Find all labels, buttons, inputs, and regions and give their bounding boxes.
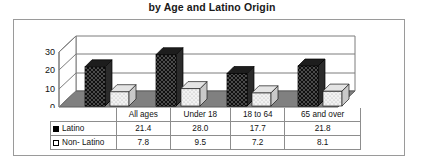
table-row: Latino 21.4 28.0 17.7 21.8 — [51, 122, 361, 136]
legend-item-non-latino: Non- Latino — [51, 136, 117, 150]
table-corner-spacer — [51, 108, 117, 122]
bar-non-latino-all-ages — [110, 85, 136, 106]
table-col-header-18-to-64: 18 to 64 — [231, 108, 285, 122]
table-cell-non-latino-18-to-64: 7.2 — [231, 136, 285, 150]
table-header-row: All ages Under 18 18 to 64 65 and over — [51, 108, 361, 122]
table-cell-latino-18-to-64: 17.7 — [231, 122, 285, 136]
table-cell-non-latino-under-18: 9.5 — [170, 136, 231, 150]
bar-non-latino-65-and-over — [323, 84, 349, 106]
table-col-header-65-and-over: 65 and over — [285, 108, 361, 122]
y-tick-10: 10 — [45, 84, 55, 94]
hollow-square-icon — [53, 140, 59, 146]
legend-label-latino: Latino — [62, 124, 84, 133]
table-cell-non-latino-65-and-over: 8.1 — [285, 136, 361, 150]
bar-non-latino-18-to-64 — [252, 86, 278, 106]
bar-face-texture — [85, 67, 105, 106]
bar-face-texture — [110, 92, 129, 106]
bar-face-texture — [252, 93, 271, 106]
legend-item-latino: Latino — [51, 122, 117, 136]
bar-latino-under-18 — [156, 48, 183, 106]
bar-latino-all-ages — [85, 60, 112, 106]
chart-data-table: All ages Under 18 18 to 64 65 and over L… — [50, 108, 361, 150]
bar-face-texture — [181, 89, 200, 106]
bar-latino-65-and-over — [298, 59, 325, 106]
filled-square-icon — [53, 126, 59, 132]
y-tick-30: 30 — [45, 47, 55, 57]
legend-label-non-latino: Non- Latino — [62, 138, 104, 147]
y-tick-20: 20 — [45, 65, 55, 75]
table-cell-non-latino-all-ages: 7.8 — [117, 136, 171, 150]
bar-face-texture — [323, 91, 342, 106]
bar-face-texture — [227, 74, 247, 107]
table-row: Non- Latino 7.8 9.5 7.2 8.1 — [51, 136, 361, 150]
y-axis-tick-labels: 30 20 10 0 — [45, 47, 55, 112]
table-cell-latino-all-ages: 21.4 — [117, 122, 171, 136]
bar-face-texture — [298, 66, 318, 106]
bar-latino-18-to-64 — [227, 67, 254, 107]
table-cell-latino-65-and-over: 21.8 — [285, 122, 361, 136]
chart-title: by Age and Latino Origin — [0, 1, 424, 13]
bar-non-latino-under-18 — [181, 82, 207, 106]
bar-face-texture — [156, 55, 176, 106]
table-col-header-under-18: Under 18 — [170, 108, 231, 122]
chart-figure: by Age and Latino Origin — [0, 0, 424, 162]
table-col-header-all-ages: All ages — [117, 108, 171, 122]
table-cell-latino-under-18: 28.0 — [170, 122, 231, 136]
